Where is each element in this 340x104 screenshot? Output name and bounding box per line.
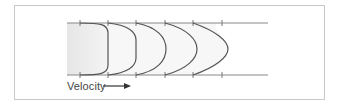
- velocity-arrow-icon: [103, 83, 131, 89]
- velocity-label: Velocity: [67, 80, 106, 92]
- pipe-flow-diagram: [0, 0, 340, 104]
- entrance-shaded-region: [67, 23, 108, 75]
